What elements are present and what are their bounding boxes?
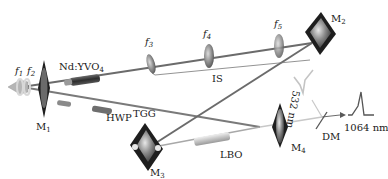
beam-dm-to-green xyxy=(312,100,322,117)
label-f2: f2 xyxy=(26,65,36,78)
label-f5: f5 xyxy=(273,18,283,31)
label-f4: f4 xyxy=(202,28,211,41)
label-lbo: LBO xyxy=(220,149,242,160)
label-hwp: HWP xyxy=(106,112,132,123)
dichroic-mirror-dm-icon xyxy=(316,112,327,129)
label-1064nm: 1064 nm xyxy=(344,122,388,133)
lens-f4-icon xyxy=(204,44,214,68)
is-bracket xyxy=(152,60,310,75)
crystal-ndyvo4 xyxy=(64,74,101,87)
ir-pulse-icon xyxy=(348,92,374,115)
green-pulse-icon xyxy=(294,70,313,93)
arrow-ir-output-icon xyxy=(340,112,346,118)
label-f3: f3 xyxy=(144,36,154,49)
mirror-m3 xyxy=(130,123,163,171)
pump-assembly xyxy=(8,79,30,95)
lens-f5-icon xyxy=(274,34,284,58)
label-m3: M3 xyxy=(150,167,165,179)
label-is: IS xyxy=(212,73,223,84)
label-tgg: TGG xyxy=(133,108,156,119)
label-f1: f1 xyxy=(14,65,23,78)
mirror-m1-face-icon xyxy=(41,68,48,108)
label-dm: DM xyxy=(322,131,340,142)
lens-f3-icon xyxy=(145,53,158,74)
mirror-m3-mount-left-icon xyxy=(132,144,138,150)
label-m4: M4 xyxy=(291,142,306,155)
hwp-plate xyxy=(57,100,72,107)
lbo-crystal xyxy=(194,132,231,146)
mirror-m4-face-icon xyxy=(276,109,284,143)
optical-setup-diagram: f1 f2 Nd:YVO4 M1 f3 f4 f5 M2 IS HWP TGG … xyxy=(0,0,388,179)
label-m1: M1 xyxy=(36,121,51,134)
label-m2: M2 xyxy=(331,13,346,26)
mirror-m1 xyxy=(38,60,50,118)
label-532nm: 532 nm xyxy=(284,90,302,130)
mirror-m3-mount-right-icon xyxy=(155,145,161,151)
beam-m1-to-m4 xyxy=(22,87,260,127)
label-nd-yvo4: Nd:YVO4 xyxy=(59,61,104,74)
